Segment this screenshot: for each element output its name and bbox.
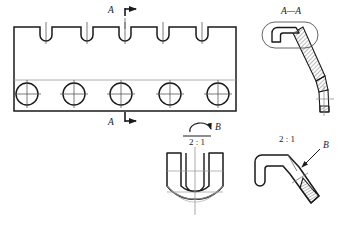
detail-b-front-view: B 2 : 1 [167, 122, 223, 215]
detail-b-side-letter: B [323, 140, 329, 150]
detail-b-front-scale: 2 : 1 [189, 137, 205, 147]
detail-b-side-view: 2 : 1 B [255, 134, 329, 203]
technical-drawing-sheet: A A A—A [0, 0, 339, 226]
section-a-a-label: A—A [280, 6, 301, 16]
detail-b-front-letter: B [215, 122, 221, 132]
section-letter-a-top: A [107, 5, 114, 15]
detail-b-side-leader [302, 149, 320, 167]
rotation-arc-icon [190, 123, 211, 132]
section-letter-a-bottom: A [107, 117, 114, 127]
section-marker-a-top: A [107, 5, 136, 29]
section-marker-a-bottom: A [107, 112, 136, 127]
drawing-canvas: A A A—A [0, 0, 339, 226]
rod-inclined-shank [293, 27, 325, 81]
front-view: A A [13, 5, 236, 127]
rod-tail-end-face [320, 106, 329, 112]
section-a-a-rod [293, 27, 334, 116]
section-a-a-view: A—A [262, 6, 334, 116]
detail-b-side-scale: 2 : 1 [279, 134, 295, 144]
